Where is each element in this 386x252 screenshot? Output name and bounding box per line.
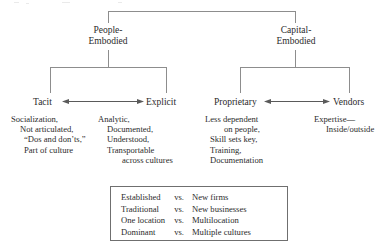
capital-bracket-stub-proprietary xyxy=(240,67,241,93)
details-tacit-line-1: Socialization, xyxy=(11,114,86,124)
comparison-vs-1: vs. xyxy=(174,204,192,216)
root-bracket-stub-left xyxy=(108,11,109,23)
details-explicit: Analytic, Documented, Understood, Transp… xyxy=(98,114,173,165)
comparison-left-2: One location xyxy=(121,215,174,227)
details-explicit-line-3: Understood, xyxy=(98,134,173,144)
leaf-tacit-label: Tacit xyxy=(33,97,52,108)
node-capital-embodied-line2: Embodied xyxy=(256,36,336,47)
details-proprietary-line-1: Less dependent xyxy=(205,114,263,124)
details-proprietary: Less dependent on people, Skill sets key… xyxy=(205,114,263,165)
details-explicit-line-1: Analytic, xyxy=(98,114,173,124)
comparison-vs-2: vs. xyxy=(174,215,192,227)
comparison-left-3: Dominant xyxy=(121,227,174,239)
details-explicit-line-2: Documented, xyxy=(98,124,173,134)
capital-bracket-stub-vendors xyxy=(349,67,350,93)
details-tacit-line-3: “Dos and don’ts,” xyxy=(11,134,86,144)
node-people-embodied: People- Embodied xyxy=(68,25,148,47)
people-bracket-stub-explicit xyxy=(166,67,167,93)
details-proprietary-line-2: on people, xyxy=(205,124,263,134)
table-row: One location vs. Multilocation xyxy=(121,215,251,227)
leaf-vendors-label: Vendors xyxy=(333,97,364,108)
node-people-embodied-line2: Embodied xyxy=(68,36,148,47)
people-bracket-stub-tacit xyxy=(50,67,51,93)
comparison-left-0: Established xyxy=(121,192,174,204)
leaf-proprietary-label: Proprietary xyxy=(214,97,257,108)
node-people-embodied-line1: People- xyxy=(68,25,148,36)
comparison-right-2: Multilocation xyxy=(192,215,251,227)
knowledge-embodiment-diagram: People- Embodied Tacit Explicit Socializ… xyxy=(0,0,386,252)
details-proprietary-line-5: Documentation xyxy=(205,155,263,165)
table-row: Dominant vs. Multiple cultures xyxy=(121,227,251,239)
leaf-explicit-label: Explicit xyxy=(146,97,176,108)
people-bracket-horizontal xyxy=(50,67,167,68)
people-branch-stem xyxy=(108,50,109,67)
arrow-tacit-explicit xyxy=(62,98,144,105)
details-explicit-line-4: Transportable xyxy=(98,145,173,155)
scan-artifact xyxy=(118,2,122,3)
table-row: Traditional vs. New businesses xyxy=(121,204,251,216)
details-proprietary-line-3: Skill sets key, xyxy=(205,134,263,144)
comparison-table: Established vs. New firms Traditional vs… xyxy=(121,192,251,238)
comparison-right-3: Multiple cultures xyxy=(192,227,251,239)
scan-artifact xyxy=(62,2,70,3)
details-vendors: Expertise— Inside/outside xyxy=(314,114,374,134)
comparison-vs-3: vs. xyxy=(174,227,192,239)
root-bracket-stub-right xyxy=(295,11,296,23)
details-proprietary-line-4: Training, xyxy=(205,145,263,155)
capital-bracket-horizontal xyxy=(240,67,350,68)
table-row: Established vs. New firms xyxy=(121,192,251,204)
details-explicit-line-5: across cultures xyxy=(98,155,173,165)
comparison-right-0: New firms xyxy=(192,192,251,204)
comparison-right-1: New businesses xyxy=(192,204,251,216)
details-vendors-line-1: Expertise— xyxy=(314,114,374,124)
scan-artifact xyxy=(14,2,19,3)
arrow-proprietary-vendors xyxy=(264,98,330,105)
details-vendors-line-2: Inside/outside xyxy=(314,124,374,134)
comparison-vs-0: vs. xyxy=(174,192,192,204)
scan-artifact xyxy=(26,3,29,4)
node-capital-embodied-line1: Capital- xyxy=(256,25,336,36)
capital-branch-stem xyxy=(295,50,296,67)
details-tacit-line-2: Not articulated, xyxy=(11,124,86,134)
details-tacit: Socialization, Not articulated, “Dos and… xyxy=(11,114,86,155)
node-capital-embodied: Capital- Embodied xyxy=(256,25,336,47)
details-tacit-line-4: Part of culture xyxy=(11,145,86,155)
comparison-left-1: Traditional xyxy=(121,204,174,216)
root-bracket-horizontal xyxy=(108,11,296,12)
